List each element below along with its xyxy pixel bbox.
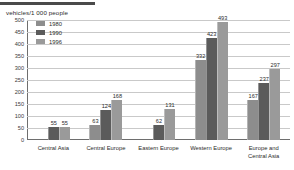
x-axis-category-label: Central Asia [27, 145, 80, 153]
bar[interactable]: 55 [48, 127, 59, 140]
bar-column: 493 [217, 20, 227, 140]
bar-value-label: 332 [196, 53, 205, 59]
y-axis-tick-label: 250 [15, 77, 24, 83]
bar-group-bars: 167237297 [237, 20, 290, 140]
bar-group-bars: 62131 [132, 20, 185, 140]
bar-group-bars: 332423493 [185, 20, 238, 140]
y-axis-tick-label: 400 [15, 41, 24, 47]
legend-item[interactable]: 1996 [36, 38, 62, 45]
bar-value-label: 423 [207, 31, 216, 37]
bar[interactable]: 62 [153, 125, 164, 140]
bar-value-label: 124 [102, 103, 111, 109]
bar-column: 297 [270, 20, 280, 140]
legend-swatch [36, 21, 45, 26]
bar-group: 332423493 [185, 20, 238, 140]
bar[interactable]: 55 [59, 127, 70, 140]
bar-value-label: 297 [271, 62, 280, 68]
bar[interactable]: 297 [269, 69, 280, 140]
bar-value-label: 237 [260, 76, 269, 82]
bar[interactable]: 423 [206, 38, 217, 140]
bar[interactable]: 168 [111, 100, 122, 140]
bar[interactable]: 124 [100, 110, 111, 140]
legend-label: 1996 [49, 39, 62, 45]
bar-group: 63124168 [80, 20, 133, 140]
header-rule [0, 2, 95, 5]
legend-swatch [36, 39, 45, 44]
bar[interactable]: 131 [164, 109, 175, 140]
y-axis-tick-label: 50 [18, 125, 24, 131]
y-axis-tick-label: 500 [15, 17, 24, 23]
bar-value-label: 493 [218, 15, 227, 21]
y-axis-tick-label: 0 [21, 137, 24, 143]
legend-label: 1980 [49, 21, 62, 27]
bar-column: 167 [248, 20, 258, 140]
bar[interactable]: 167 [247, 100, 258, 140]
x-axis-category-label: Western Europe [185, 145, 238, 153]
bar-value-label: 168 [113, 93, 122, 99]
bar-value-label: 63 [92, 118, 98, 124]
legend-swatch [36, 30, 45, 35]
bar-group: 62131 [132, 20, 185, 140]
bar-column: 124 [101, 20, 111, 140]
y-axis-tick-label: 100 [15, 113, 24, 119]
plot-area: 500450400350300250200150100500 555563124… [27, 20, 290, 140]
y-axis-title: vehicles/1 000 people [6, 9, 68, 16]
y-axis-tick-label: 200 [15, 89, 24, 95]
bar-column: 131 [164, 20, 174, 140]
bar-value-label: 55 [62, 120, 68, 126]
bar-value-label: 55 [51, 120, 57, 126]
bar-value-label: 167 [249, 93, 258, 99]
bar-value-label: 62 [156, 118, 162, 124]
bar-column: 63 [90, 20, 100, 140]
bar-column: 237 [259, 20, 269, 140]
bar-column: 423 [206, 20, 216, 140]
bar-column: 168 [112, 20, 122, 140]
legend-item[interactable]: 1980 [36, 20, 62, 27]
x-axis-labels: Central AsiaCentral EuropeEastern Europe… [27, 145, 290, 169]
y-axis-tick-label: 150 [15, 101, 24, 107]
chart-legend: 198019901996 [36, 20, 62, 45]
y-axis-tick-label: 450 [15, 29, 24, 35]
x-axis-category-label: Central Europe [80, 145, 133, 153]
bar[interactable]: 63 [89, 125, 100, 140]
bar[interactable]: 237 [258, 83, 269, 140]
y-axis-tick-label: 350 [15, 53, 24, 59]
bar[interactable]: 332 [195, 60, 206, 140]
bar-group-bars: 63124168 [80, 20, 133, 140]
x-axis-category-label: Europe andCentral Asia [237, 145, 290, 160]
legend-label: 1990 [49, 30, 62, 36]
bar-value-label: 131 [165, 102, 174, 108]
bar-column: 332 [195, 20, 205, 140]
bar-group: 167237297 [237, 20, 290, 140]
bar-column: 62 [153, 20, 163, 140]
bar[interactable]: 493 [217, 22, 228, 140]
chart-figure: vehicles/1 000 people 500450400350300250… [0, 0, 294, 170]
y-axis-tick-label: 300 [15, 65, 24, 71]
x-axis-category-label: Eastern Europe [132, 145, 185, 153]
legend-item[interactable]: 1990 [36, 29, 62, 36]
